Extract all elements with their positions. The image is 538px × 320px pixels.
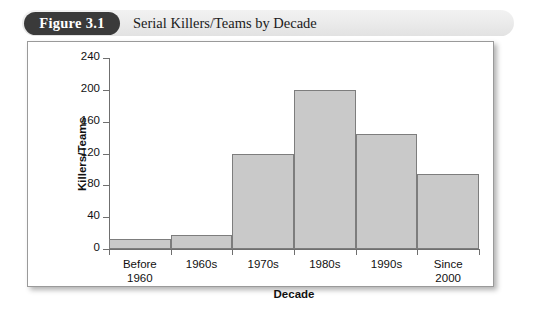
bar <box>171 235 233 249</box>
x-tick-label: 1990s <box>356 258 418 272</box>
x-tick-label: 1960s <box>171 258 233 272</box>
x-tick-mark <box>171 249 172 255</box>
y-tick-label: 0 <box>94 241 100 253</box>
figure-title: Serial Killers/Teams by Decade <box>133 15 317 32</box>
figure-caption-bar: Figure 3.1 Serial Killers/Teams by Decad… <box>22 10 514 36</box>
y-tick-label: 200 <box>81 82 100 94</box>
y-tick-mark <box>103 154 109 155</box>
y-tick-mark <box>103 58 109 59</box>
y-tick-label: 240 <box>81 50 100 62</box>
y-tick-label: 120 <box>81 146 100 158</box>
x-tick-label: Before1960 <box>109 258 171 285</box>
x-tick-mark <box>232 249 233 255</box>
x-tick-label: Since2000 <box>417 258 479 285</box>
x-tick-label: 1970s <box>232 258 294 272</box>
y-tick-mark <box>103 122 109 123</box>
figure-page: Figure 3.1 Serial Killers/Teams by Decad… <box>0 0 538 320</box>
chart-card: Killers/Teams 04080120160200240 Before19… <box>27 41 494 287</box>
x-tick-mark <box>294 249 295 255</box>
bar <box>356 134 418 249</box>
y-tick-label: 40 <box>87 209 100 221</box>
bar <box>417 174 479 249</box>
figure-number-badge: Figure 3.1 <box>24 12 120 35</box>
y-tick-label: 160 <box>81 114 100 126</box>
plot-area: Killers/Teams 04080120160200240 Before19… <box>109 58 479 249</box>
x-tick-mark <box>109 249 110 255</box>
x-tick-mark <box>479 249 480 255</box>
y-tick-label: 80 <box>87 177 100 189</box>
x-tick-label: 1980s <box>294 258 356 272</box>
y-axis-line <box>109 58 110 249</box>
y-tick-mark <box>103 185 109 186</box>
bar <box>294 90 356 249</box>
bar <box>109 239 171 249</box>
x-tick-mark <box>417 249 418 255</box>
y-tick-mark <box>103 217 109 218</box>
bar <box>232 154 294 249</box>
y-tick-mark <box>103 90 109 91</box>
x-axis-title: Decade <box>109 288 479 300</box>
x-tick-mark <box>356 249 357 255</box>
